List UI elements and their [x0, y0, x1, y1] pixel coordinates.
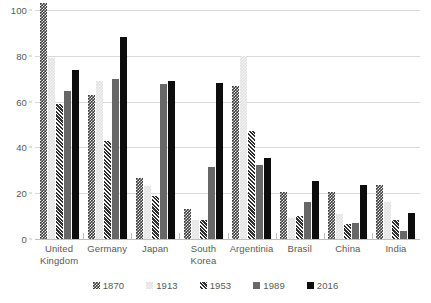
legend-swatch-icon — [307, 282, 314, 289]
bar — [40, 3, 47, 239]
bar — [136, 178, 143, 239]
bar — [168, 81, 175, 239]
y-tick-label-0: 0 — [22, 234, 27, 245]
bar — [352, 223, 359, 239]
x-tick-mark — [131, 233, 132, 239]
legend-swatch-icon — [93, 282, 100, 289]
x-tick-label: India — [385, 243, 406, 255]
x-tick-label: Japan — [142, 243, 168, 255]
bar-group — [372, 10, 420, 239]
bar — [248, 131, 255, 239]
bar — [72, 70, 79, 239]
bar-group — [35, 10, 83, 239]
legend-label: 1953 — [210, 280, 232, 291]
bar — [48, 58, 55, 239]
y-tick-mark-100 — [29, 10, 32, 11]
bar — [120, 37, 127, 239]
bar — [288, 218, 295, 239]
y-axis: 020406080100 — [0, 10, 32, 239]
bar — [152, 196, 159, 240]
x-tick-label: Brasil — [288, 243, 312, 255]
bar — [304, 202, 311, 239]
legend-label: 2016 — [317, 280, 339, 291]
chart-legend: 18701913195319892016 — [0, 280, 431, 291]
bar — [264, 158, 271, 239]
bar — [56, 104, 63, 239]
bar-chart: 020406080100 United KingdomGermanyJapanS… — [0, 0, 431, 303]
bar — [296, 216, 303, 239]
x-tick-mark — [372, 233, 373, 239]
y-tick-mark-80 — [29, 55, 32, 56]
bar — [96, 81, 103, 239]
x-tick-label: United Kingdom — [40, 243, 78, 266]
bar — [104, 141, 111, 239]
bar — [408, 213, 415, 239]
bar — [384, 202, 391, 239]
gridline-0 — [35, 239, 420, 240]
legend-swatch-icon — [200, 282, 207, 289]
bar — [184, 209, 191, 239]
bar — [256, 165, 263, 239]
x-tick-mark — [228, 233, 229, 239]
legend-item-1953[interactable]: 1953 — [200, 280, 232, 291]
legend-item-1989[interactable]: 1989 — [253, 280, 285, 291]
bar-group — [179, 10, 227, 239]
bar — [336, 214, 343, 239]
legend-swatch-icon — [253, 282, 260, 289]
bar-group — [324, 10, 372, 239]
legend-item-2016[interactable]: 2016 — [307, 280, 339, 291]
bar — [144, 186, 151, 239]
bar — [88, 95, 95, 239]
x-axis: United KingdomGermanyJapanSouth KoreaArg… — [35, 243, 420, 273]
bar — [400, 231, 407, 239]
bar — [192, 220, 199, 239]
legend-label: 1989 — [263, 280, 285, 291]
legend-item-1913[interactable]: 1913 — [146, 280, 178, 291]
legend-label: 1913 — [156, 280, 178, 291]
x-tick-label: South Korea — [191, 243, 217, 266]
legend-label: 1870 — [103, 280, 125, 291]
plot-area — [35, 10, 420, 239]
legend-item-1870[interactable]: 1870 — [93, 280, 125, 291]
x-tick-label: Germany — [87, 243, 127, 255]
bar — [200, 220, 207, 239]
bar — [240, 56, 247, 239]
x-tick-mark — [276, 233, 277, 239]
bar — [112, 79, 119, 239]
y-tick-label-60: 60 — [16, 96, 27, 107]
y-tick-mark-40 — [29, 147, 32, 148]
y-tick-label-40: 40 — [16, 142, 27, 153]
y-tick-label-80: 80 — [16, 50, 27, 61]
x-tick-label: Argentinia — [230, 243, 274, 255]
bar-group — [131, 10, 179, 239]
bar — [208, 167, 215, 239]
x-tick-label: China — [335, 243, 360, 255]
legend-swatch-icon — [146, 282, 153, 289]
x-tick-mark — [83, 233, 84, 239]
x-tick-mark — [324, 233, 325, 239]
bar — [160, 84, 167, 239]
y-tick-mark-60 — [29, 101, 32, 102]
bar — [64, 91, 71, 239]
bar — [280, 192, 287, 239]
x-tick-mark — [179, 233, 180, 239]
bar — [392, 220, 399, 239]
bar-group — [228, 10, 276, 239]
bar — [216, 83, 223, 239]
bar — [344, 224, 351, 239]
bar — [232, 86, 239, 239]
bar-group — [276, 10, 324, 239]
bar — [360, 185, 367, 239]
bar — [376, 185, 383, 239]
bar — [312, 181, 319, 239]
y-tick-mark-20 — [29, 193, 32, 194]
y-tick-label-20: 20 — [16, 188, 27, 199]
y-tick-label-100: 100 — [11, 5, 27, 16]
bar — [328, 192, 335, 239]
bar-group — [83, 10, 131, 239]
bars-layer — [35, 10, 420, 239]
y-tick-mark-0 — [29, 239, 32, 240]
